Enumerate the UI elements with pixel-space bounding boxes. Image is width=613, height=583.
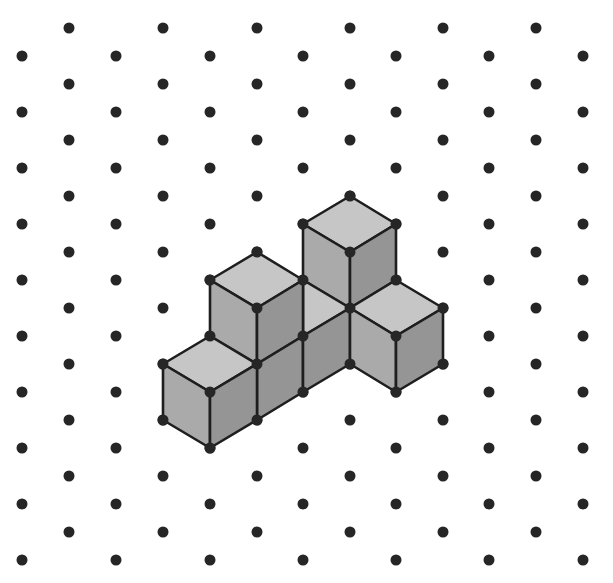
grid-dot [298, 443, 309, 454]
vertex-dot [345, 247, 356, 258]
grid-dot [578, 163, 589, 174]
grid-dot [111, 107, 122, 118]
grid-dot [531, 247, 542, 258]
grid-dot [578, 219, 589, 230]
grid-dot [17, 107, 28, 118]
vertex-dot [391, 219, 402, 230]
grid-dot [345, 527, 356, 538]
vertex-dot [158, 359, 169, 370]
grid-dot [578, 331, 589, 342]
grid-dot [484, 499, 495, 510]
grid-dot [578, 387, 589, 398]
grid-dot [484, 331, 495, 342]
grid-dot [17, 51, 28, 62]
grid-dot [578, 107, 589, 118]
grid-dot [531, 415, 542, 426]
grid-dot [484, 219, 495, 230]
grid-dot [484, 51, 495, 62]
grid-dot [158, 23, 169, 34]
vertex-dot [205, 275, 216, 286]
vertex-dot [158, 415, 169, 426]
grid-dot [17, 387, 28, 398]
grid-dot [252, 471, 263, 482]
grid-dot [391, 555, 402, 566]
grid-dot [531, 471, 542, 482]
grid-dot [578, 275, 589, 286]
grid-dot [298, 163, 309, 174]
grid-dot [64, 135, 75, 146]
grid-dot [158, 79, 169, 90]
vertex-dot [205, 443, 216, 454]
grid-dot [298, 499, 309, 510]
vertex-dot [252, 359, 263, 370]
grid-dot [64, 247, 75, 258]
grid-dot [111, 331, 122, 342]
grid-dot [484, 275, 495, 286]
grid-dot [438, 415, 449, 426]
grid-dot [438, 23, 449, 34]
vertex-dot [252, 247, 263, 258]
grid-dot [158, 135, 169, 146]
grid-dot [252, 527, 263, 538]
grid-dot [158, 247, 169, 258]
vertex-dot [391, 331, 402, 342]
grid-dot [484, 163, 495, 174]
vertex-dot [252, 415, 263, 426]
vertex-dot [345, 303, 356, 314]
grid-dot [17, 219, 28, 230]
grid-dot [484, 443, 495, 454]
grid-dot [438, 191, 449, 202]
grid-dot [17, 163, 28, 174]
vertex-dot [391, 387, 402, 398]
vertex-dot [298, 387, 309, 398]
grid-dot [64, 415, 75, 426]
grid-dot [252, 135, 263, 146]
vertex-dot [298, 219, 309, 230]
grid-dot [111, 555, 122, 566]
grid-dot [345, 23, 356, 34]
grid-dot [531, 23, 542, 34]
grid-dot [391, 51, 402, 62]
grid-dot [531, 303, 542, 314]
isometric-dot-grid-canvas [0, 0, 613, 583]
grid-dot [205, 107, 216, 118]
grid-dot [438, 135, 449, 146]
vertex-dot [205, 331, 216, 342]
grid-dot [111, 499, 122, 510]
vertex-dot [438, 359, 449, 370]
grid-dot [484, 555, 495, 566]
grid-dot [111, 387, 122, 398]
grid-dot [438, 471, 449, 482]
grid-dot [64, 527, 75, 538]
grid-dot [64, 191, 75, 202]
grid-dot [298, 107, 309, 118]
grid-dot [158, 303, 169, 314]
grid-dot [252, 23, 263, 34]
grid-dot [64, 79, 75, 90]
grid-dot [17, 331, 28, 342]
grid-dot [531, 191, 542, 202]
grid-dot [205, 499, 216, 510]
vertex-dot [438, 303, 449, 314]
grid-dot [17, 275, 28, 286]
grid-dot [438, 247, 449, 258]
grid-dot [298, 51, 309, 62]
grid-dot [391, 443, 402, 454]
grid-dot [111, 443, 122, 454]
grid-dot [298, 555, 309, 566]
grid-dot [531, 79, 542, 90]
grid-dot [158, 191, 169, 202]
grid-dot [111, 219, 122, 230]
grid-dot [205, 555, 216, 566]
grid-dot [531, 527, 542, 538]
grid-dot [578, 443, 589, 454]
grid-dot [111, 275, 122, 286]
grid-dot [252, 191, 263, 202]
grid-dot [345, 79, 356, 90]
grid-dot [64, 23, 75, 34]
grid-dot [345, 471, 356, 482]
grid-dot [484, 387, 495, 398]
grid-dot [531, 359, 542, 370]
grid-dot [17, 443, 28, 454]
grid-dot [578, 555, 589, 566]
